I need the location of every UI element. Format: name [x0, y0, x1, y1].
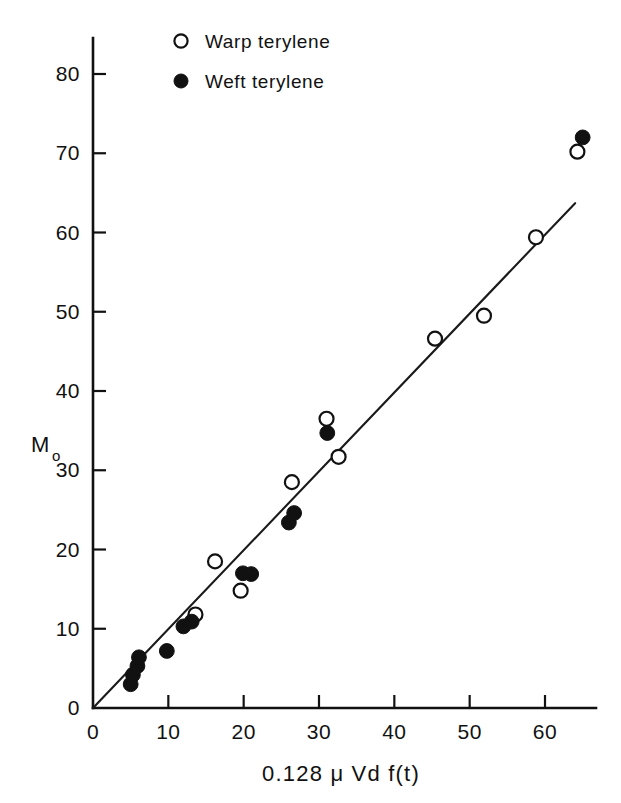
y-tick-label-10: 10: [56, 617, 80, 640]
y-axis-title: M o: [31, 432, 60, 464]
data-point-warp-7: [477, 309, 491, 323]
data-point-warp-3: [285, 475, 299, 489]
y-axis-title-text: M: [31, 432, 51, 457]
y-tick-label-40: 40: [56, 379, 80, 402]
data-point-weft-4: [159, 644, 174, 659]
y-tick-label-70: 70: [56, 141, 80, 164]
data-point-warp-4: [320, 412, 334, 426]
data-point-weft-6: [184, 614, 199, 629]
legend-item-weft-terylene: Weft terylene: [174, 71, 324, 92]
x-axis-ticks: [168, 695, 545, 708]
x-tick-label-0: 0: [87, 720, 99, 743]
legend-item-warp-terylene: Warp terylene: [174, 31, 330, 52]
y-axis-tick-labels: 01020304050607080: [56, 62, 80, 719]
data-point-warp-9: [570, 145, 584, 159]
legend-marker-filled-circle-icon: [174, 74, 188, 88]
x-tick-label-50: 50: [457, 720, 481, 743]
x-tick-label-40: 40: [382, 720, 406, 743]
data-point-warp-6: [428, 332, 442, 346]
x-tick-label-10: 10: [156, 720, 180, 743]
legend-marker-open-circle-icon: [174, 34, 187, 47]
x-tick-label-30: 30: [307, 720, 331, 743]
legend-label-warp: Warp terylene: [205, 31, 330, 52]
y-tick-label-80: 80: [56, 62, 80, 85]
y-axis-ticks: [93, 74, 106, 629]
x-axis-tick-labels: 0102030405060: [87, 720, 557, 743]
x-tick-label-20: 20: [231, 720, 255, 743]
scatter-plot-figure: 01020304050607080 0102030405060 M o 0.12…: [0, 0, 621, 803]
legend: Warp terylene Weft terylene: [174, 31, 330, 92]
x-tick-label-60: 60: [533, 720, 557, 743]
x-axis-title: 0.128 μ Vd f(t): [262, 761, 420, 786]
data-point-weft-8: [244, 567, 259, 582]
data-point-weft-3: [132, 650, 147, 665]
y-tick-label-0: 0: [68, 696, 80, 719]
y-tick-label-50: 50: [56, 300, 80, 323]
legend-label-weft: Weft terylene: [205, 71, 324, 92]
plot-canvas: 01020304050607080 0102030405060 M o 0.12…: [0, 0, 621, 803]
data-point-weft-10: [287, 506, 302, 521]
data-point-weft-11: [320, 426, 335, 441]
x-axis-title-text: 0.128 μ Vd f(t): [262, 761, 420, 786]
y-axis-title-subscript: o: [52, 447, 60, 464]
axes: [93, 38, 596, 708]
data-point-weft-12: [575, 130, 590, 145]
y-tick-label-20: 20: [56, 538, 80, 561]
data-point-warp-8: [529, 230, 543, 244]
series-warp-terylene-points: [188, 145, 584, 622]
data-point-warp-5: [332, 450, 346, 464]
data-point-warp-1: [208, 554, 222, 568]
y-tick-label-60: 60: [56, 221, 80, 244]
data-point-warp-2: [234, 584, 248, 598]
